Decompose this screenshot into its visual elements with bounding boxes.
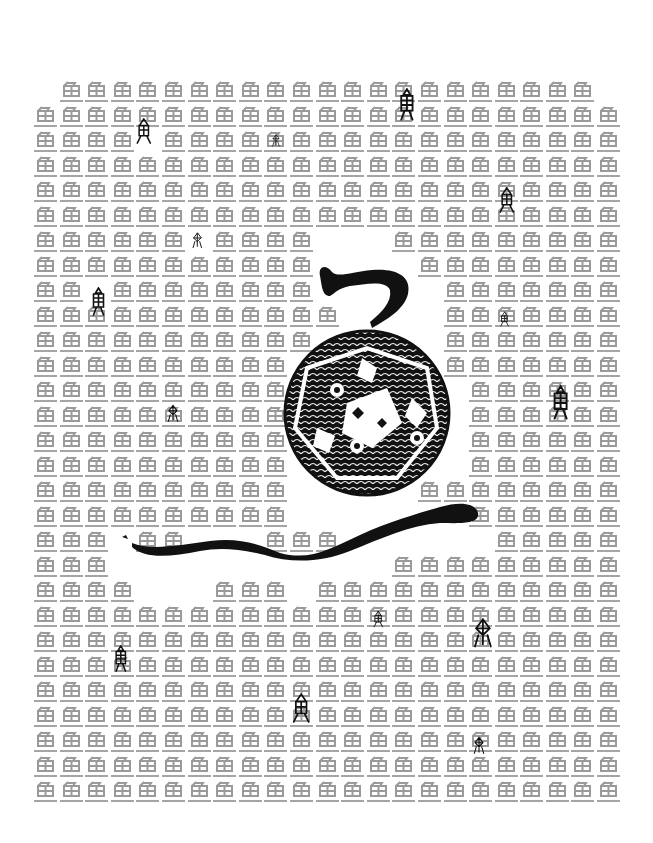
underline (341, 750, 364, 752)
fish-character-icon (214, 456, 235, 473)
fish-character-cell (238, 455, 264, 480)
koi-medallion (277, 328, 457, 498)
fish-character-icon (496, 231, 517, 248)
fish-character-icon (291, 231, 312, 248)
fish-character-cell (33, 280, 59, 305)
underline (111, 775, 134, 777)
fish-character-cell (417, 230, 443, 255)
fish-character-cell (366, 780, 392, 805)
fish-character-cell (84, 505, 110, 530)
fish-character-icon (572, 381, 593, 398)
fish-character-cell (417, 155, 443, 180)
underline (34, 800, 57, 802)
underline (495, 400, 518, 402)
underline (290, 800, 313, 802)
fish-character-icon (240, 656, 261, 673)
fish-character-cell (84, 205, 110, 230)
fish-character-icon (112, 256, 133, 273)
fish-character-cell (238, 155, 264, 180)
fish-character-cell (110, 355, 136, 380)
fish-character-cell (494, 655, 520, 680)
fish-character-cell (161, 380, 187, 405)
fish-character-icon (61, 756, 82, 773)
fish-character-icon (240, 381, 261, 398)
fish-character-icon (240, 431, 261, 448)
fish-character-icon (214, 406, 235, 423)
grid-row (33, 755, 623, 780)
fish-character-icon (240, 581, 261, 598)
fish-character-icon (598, 481, 619, 498)
underline (469, 150, 492, 152)
fish-character-cell (468, 580, 494, 605)
fish-character-cell (135, 680, 161, 705)
fish-character-icon (35, 306, 56, 323)
underline (264, 275, 287, 277)
fish-character-icon (547, 731, 568, 748)
underline (392, 175, 415, 177)
underline (418, 775, 441, 777)
fish-character-icon (137, 456, 158, 473)
underline (162, 675, 185, 677)
fish-character-cell (494, 255, 520, 280)
underline (136, 450, 159, 452)
fish-character-cell (263, 680, 289, 705)
fish-character-cell (391, 580, 417, 605)
underline (213, 375, 236, 377)
fish-character-icon (598, 181, 619, 198)
fish-character-cell (391, 730, 417, 755)
fish-character-icon (547, 306, 568, 323)
fish-character-icon (572, 506, 593, 523)
underline (85, 250, 108, 252)
fish-character-icon (86, 606, 107, 623)
fish-character-icon (35, 481, 56, 498)
fish-character-icon (598, 131, 619, 148)
fish-character-cell (570, 430, 596, 455)
fish-character-cell (59, 280, 85, 305)
fish-character-cell (263, 280, 289, 305)
fish-character-cell (289, 105, 315, 130)
underline (264, 775, 287, 777)
fish-character-icon (470, 356, 491, 373)
fish-character-icon (189, 406, 210, 423)
underline (444, 200, 467, 202)
underline (188, 625, 211, 627)
fish-character-cell (519, 180, 545, 205)
fish-character-icon (291, 606, 312, 623)
fish-character-icon (35, 706, 56, 723)
fish-character-icon (189, 181, 210, 198)
fish-character-cell (289, 280, 315, 305)
underline (239, 700, 262, 702)
fish-character-icon (61, 156, 82, 173)
fish-character-icon (419, 606, 440, 623)
fish-character-cell (596, 730, 622, 755)
fish-character-cell (135, 180, 161, 205)
underline (213, 800, 236, 802)
underline (111, 325, 134, 327)
underline (264, 250, 287, 252)
fish-character-icon (598, 681, 619, 698)
fish-character-cell (340, 755, 366, 780)
fish-character-icon (189, 331, 210, 348)
fish-character-cell (545, 430, 571, 455)
fish-character-icon (137, 606, 158, 623)
fish-character-icon (61, 606, 82, 623)
fish-character-cell (570, 505, 596, 530)
fish-character-cell (315, 105, 341, 130)
fish-character-icon (163, 656, 184, 673)
underline (520, 250, 543, 252)
underline (469, 175, 492, 177)
fish-character-icon (572, 81, 593, 98)
underline (597, 625, 620, 627)
fish-character-icon (240, 231, 261, 248)
underline (85, 675, 108, 677)
fish-character-icon (265, 81, 286, 98)
fish-character-cell (366, 630, 392, 655)
fish-character-cell (417, 680, 443, 705)
fish-character-cell (519, 555, 545, 580)
underline (60, 425, 83, 427)
underline (341, 725, 364, 727)
fish-character-cell (289, 580, 315, 605)
fish-character-icon (137, 281, 158, 298)
fish-character-cell (289, 780, 315, 805)
fish-character-icon (240, 331, 261, 348)
